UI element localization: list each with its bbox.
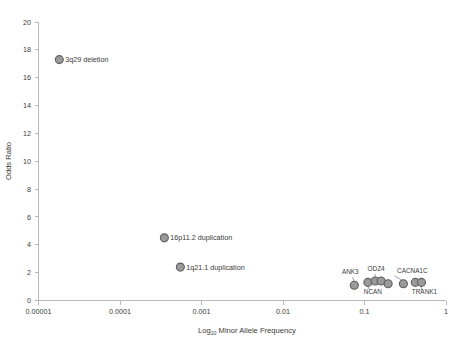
x-tick-group: 0.000010.00010.0010.010.11 bbox=[26, 301, 448, 317]
y-tick-label: 12 bbox=[23, 129, 31, 138]
data-point-label-3q29-deletion: 3q29 deletion bbox=[65, 55, 108, 64]
y-tick-label: 10 bbox=[23, 157, 31, 166]
data-point-group bbox=[55, 56, 425, 290]
data-point-label-16p11-2-duplication: 16p11.2 duplication bbox=[170, 233, 232, 242]
data-point-label-trank1: TRANK1 bbox=[412, 288, 438, 295]
y-tick-label: 6 bbox=[27, 213, 31, 222]
data-point-label-ncan: NCAN bbox=[364, 288, 382, 295]
data-point-trank1 bbox=[417, 278, 425, 286]
x-tick-label: 1 bbox=[444, 307, 448, 316]
y-tick-label: 4 bbox=[27, 240, 31, 249]
x-tick-label: 0.0001 bbox=[109, 307, 131, 316]
data-point-16p11-2-duplication bbox=[160, 234, 168, 242]
scatter-chart: 02468101214161820 0.000010.00010.0010.01… bbox=[0, 0, 456, 340]
data-point-label-1q21-1-duplication: 1q21.1 duplication bbox=[186, 263, 244, 272]
data-point-unlabeled-2 bbox=[384, 280, 392, 288]
x-axis-title: Log10 Minor Allele Frequency bbox=[198, 326, 296, 336]
data-point-label-odz4: ODZ4 bbox=[368, 265, 385, 272]
data-point-label-cacna1c: CACNA1C bbox=[397, 267, 428, 274]
data-point-label-ank3: ANK3 bbox=[342, 268, 359, 275]
data-point-3q29-deletion bbox=[55, 56, 63, 64]
y-tick-group: 02468101214161820 bbox=[23, 18, 39, 306]
y-tick-label: 8 bbox=[27, 185, 31, 194]
y-tick-label: 20 bbox=[23, 18, 31, 27]
y-tick-label: 18 bbox=[23, 45, 31, 54]
y-tick-label: 0 bbox=[27, 296, 31, 305]
x-axis-title-rest: Minor Allele Frequency bbox=[216, 326, 296, 335]
y-tick-label: 2 bbox=[27, 268, 31, 277]
x-axis-title-main: Log bbox=[198, 326, 211, 335]
data-label-group: 3q29 deletion16p11.2 duplication1q21.1 d… bbox=[65, 55, 437, 295]
svg-text:Log10 Minor Allele Frequency: Log10 Minor Allele Frequency bbox=[198, 326, 296, 336]
x-tick-label: 0.1 bbox=[360, 307, 370, 316]
label-leader-line bbox=[352, 277, 354, 281]
data-point-cacna1c bbox=[399, 280, 407, 288]
y-tick-label: 14 bbox=[23, 101, 31, 110]
data-point-1q21-1-duplication bbox=[176, 263, 184, 271]
y-axis-title: Odds Ratio bbox=[4, 142, 13, 180]
data-point-ncan bbox=[364, 278, 372, 286]
plot-area: 02468101214161820 0.000010.00010.0010.01… bbox=[0, 0, 456, 340]
x-tick-label: 0.001 bbox=[193, 307, 211, 316]
label-leader-line bbox=[394, 276, 401, 280]
y-tick-label: 16 bbox=[23, 73, 31, 82]
x-tick-label: 0.00001 bbox=[26, 307, 52, 316]
x-tick-label: 0.01 bbox=[276, 307, 290, 316]
data-point-ank3 bbox=[350, 281, 358, 289]
